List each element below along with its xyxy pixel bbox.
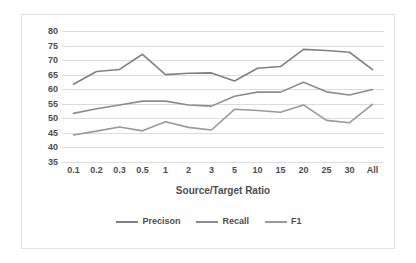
y-axis-tick-label: 35: [36, 158, 58, 167]
x-axis-tick-label: 20: [298, 165, 308, 175]
series-line: [74, 49, 373, 84]
legend-item[interactable]: Precison: [116, 217, 180, 226]
y-axis-tick-label: 80: [36, 27, 58, 36]
y-axis-tick-label: 55: [36, 99, 58, 108]
plot-wrapper: 80757065605550454035 0.10.20.30.51235101…: [22, 15, 396, 250]
x-axis-tick-label: 0.3: [113, 165, 126, 175]
x-axis-title: Source/Target Ratio: [62, 185, 384, 196]
y-axis-tick-label: 60: [36, 85, 58, 94]
x-axis-tick-label: 30: [344, 165, 354, 175]
legend-label: Recall: [222, 217, 249, 226]
x-axis-tick-labels: 0.10.20.30.512351015202530All: [62, 165, 384, 179]
y-axis-tick-labels: 80757065605550454035: [34, 15, 58, 250]
series-line: [74, 82, 373, 113]
x-axis-tick-label: 3: [209, 165, 214, 175]
y-axis-tick-label: 40: [36, 143, 58, 152]
series-lines: [62, 31, 384, 162]
chart-legend: PrecisonRecallF1: [22, 217, 396, 226]
legend-label: Precison: [142, 217, 180, 226]
x-axis-tick-label: All: [367, 165, 379, 175]
gridline: [62, 162, 384, 163]
y-axis-tick-label: 75: [36, 41, 58, 50]
y-axis-tick-label: 50: [36, 114, 58, 123]
y-axis-tick-label: 65: [36, 70, 58, 79]
x-axis-tick-label: 0.1: [67, 165, 80, 175]
x-axis-tick-label: 15: [275, 165, 285, 175]
y-axis-tick-label: 45: [36, 128, 58, 137]
x-axis-tick-label: 1: [163, 165, 168, 175]
legend-item[interactable]: F1: [265, 217, 302, 226]
legend-label: F1: [291, 217, 302, 226]
series-line: [74, 104, 373, 135]
legend-swatch-icon: [196, 221, 218, 223]
y-axis-tick-label: 70: [36, 56, 58, 65]
legend-swatch-icon: [265, 221, 287, 223]
x-axis-tick-label: 10: [252, 165, 262, 175]
legend-swatch-icon: [116, 221, 138, 223]
x-axis-tick-label: 0.5: [136, 165, 149, 175]
legend-item[interactable]: Recall: [196, 217, 249, 226]
x-axis-tick-label: 0.2: [90, 165, 103, 175]
plot-area: [62, 31, 384, 162]
chart-container: 80757065605550454035 0.10.20.30.51235101…: [21, 14, 395, 249]
x-axis-tick-label: 2: [186, 165, 191, 175]
x-axis-tick-label: 25: [321, 165, 331, 175]
x-axis-tick-label: 5: [232, 165, 237, 175]
